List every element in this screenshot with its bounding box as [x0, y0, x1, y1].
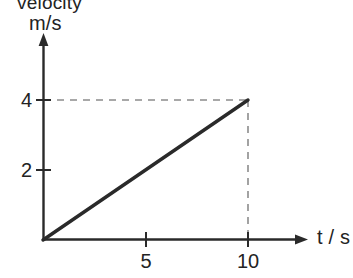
- y-tick-label-2: 2: [10, 160, 32, 180]
- x-axis-arrowhead-icon: [295, 235, 308, 245]
- velocity-time-graph-figure: velocity m/s t / s 4 2 5 10: [0, 0, 353, 278]
- plot-area: [0, 0, 353, 278]
- x-axis-title: t / s: [317, 227, 350, 247]
- y-axis-arrowhead-icon: [39, 33, 49, 46]
- x-tick-label-5: 5: [126, 251, 166, 271]
- y-tick-label-4: 4: [10, 90, 32, 110]
- data-line-velocity: [43, 100, 248, 240]
- y-axis-title-unit: m/s: [29, 13, 62, 33]
- x-tick-label-10: 10: [228, 251, 268, 271]
